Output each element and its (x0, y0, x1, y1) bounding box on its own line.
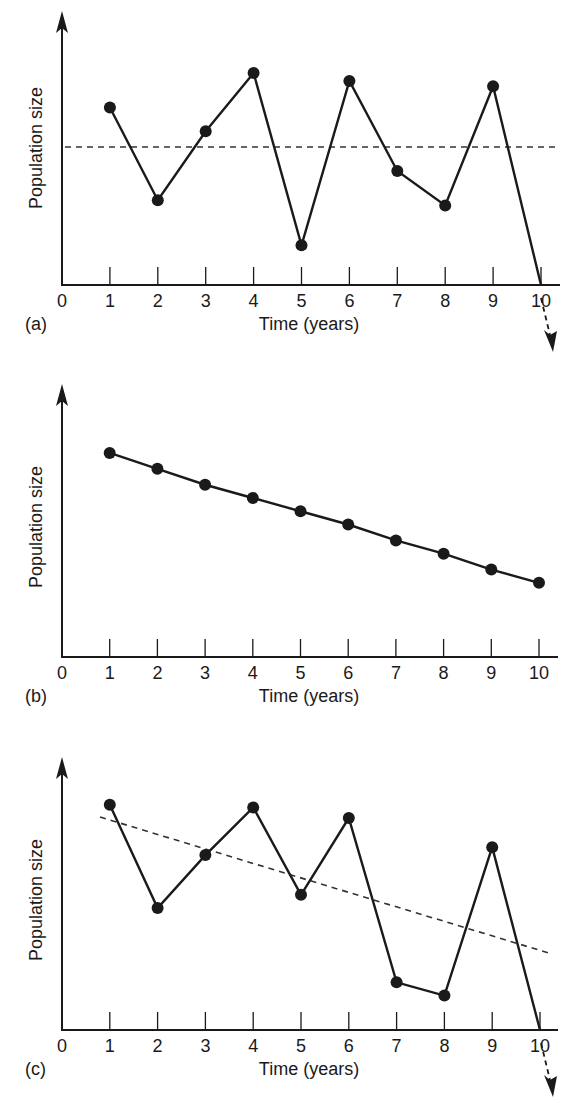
chart-a-svg: 012345678910 Population size Time (years… (0, 0, 580, 370)
x-tick-label: 4 (249, 291, 259, 311)
x-axis-title: Time (years) (259, 1059, 359, 1079)
x-tick-label: 2 (153, 1036, 163, 1056)
x-tick-label: 10 (530, 1036, 550, 1056)
x-tick-label: 7 (392, 1036, 402, 1056)
x-tick-label: 0 (57, 1036, 67, 1056)
x-tick-label: 8 (439, 663, 449, 683)
data-point-marker (486, 841, 498, 853)
chart-panel-b: 012345678910 Population size Time (years… (0, 370, 580, 740)
data-markers (104, 799, 498, 1002)
data-point-marker (247, 801, 259, 813)
data-point-marker (438, 990, 450, 1002)
x-axis: 012345678910 (57, 639, 558, 683)
y-axis (56, 11, 68, 285)
data-point-marker (152, 902, 164, 914)
data-point-marker (343, 812, 355, 824)
y-axis-title: Population size (26, 466, 46, 588)
y-axis (56, 384, 68, 657)
x-tick-label: 10 (529, 663, 549, 683)
chart-c-svg: 012345678910 Population size Time (years… (0, 740, 580, 1103)
data-point-marker (342, 519, 354, 531)
x-axis: 012345678910 (57, 1012, 558, 1056)
x-axis: 012345678910 (57, 267, 560, 311)
y-axis (56, 757, 68, 1030)
x-tick-label: 6 (343, 663, 353, 683)
x-tick-label: 2 (152, 663, 162, 683)
data-point-marker (152, 194, 164, 206)
population-line (110, 73, 541, 285)
data-point-marker (295, 505, 307, 517)
x-tick-label: 3 (200, 663, 210, 683)
x-ticks (110, 639, 539, 657)
data-point-marker (200, 125, 212, 137)
x-tick-label: 4 (248, 1036, 258, 1056)
data-point-marker (295, 889, 307, 901)
trend-dashed-line (100, 817, 552, 954)
data-point-marker (390, 534, 402, 546)
x-tick-label: 1 (105, 663, 115, 683)
data-point-marker (439, 200, 451, 212)
panel-label: (a) (25, 314, 47, 334)
x-tick-label: 0 (57, 663, 67, 683)
x-tick-label: 3 (200, 1036, 210, 1056)
x-tick-label: 9 (488, 291, 498, 311)
x-tick-label: 9 (486, 663, 496, 683)
x-axis-title: Time (years) (259, 686, 359, 706)
data-point-marker (391, 976, 403, 988)
data-point-marker (199, 849, 211, 861)
x-tick-labels: 012345678910 (57, 291, 551, 311)
data-point-marker (104, 447, 116, 459)
y-axis-title: Population size (26, 839, 46, 961)
x-tick-label: 6 (344, 291, 354, 311)
x-tick-label: 9 (487, 1036, 497, 1056)
data-point-marker (104, 101, 116, 113)
x-ticks (110, 267, 541, 285)
data-point-marker (247, 492, 259, 504)
x-tick-label: 8 (440, 291, 450, 311)
data-point-marker (438, 548, 450, 560)
x-tick-label: 7 (391, 663, 401, 683)
x-axis-title: Time (years) (259, 314, 359, 334)
x-tick-label: 1 (105, 1036, 115, 1056)
x-tick-label: 5 (296, 1036, 306, 1056)
data-point-marker (248, 67, 260, 79)
x-tick-label: 8 (439, 1036, 449, 1056)
x-tick-label: 3 (201, 291, 211, 311)
data-point-marker (296, 239, 308, 251)
data-point-marker (199, 479, 211, 491)
population-line (110, 453, 539, 583)
data-markers (104, 67, 499, 251)
x-tick-label: 5 (296, 291, 306, 311)
data-point-marker (391, 165, 403, 177)
x-tick-label: 2 (153, 291, 163, 311)
data-point-marker (533, 577, 545, 589)
x-tick-labels: 012345678910 (57, 663, 549, 683)
panel-label: (c) (25, 1059, 46, 1079)
x-tick-label: 5 (295, 663, 305, 683)
panel-label: (b) (25, 686, 47, 706)
data-point-marker (151, 463, 163, 475)
x-tick-label: 0 (57, 291, 67, 311)
chart-b-svg: 012345678910 Population size Time (years… (0, 370, 580, 740)
chart-panel-c: 012345678910 Population size Time (years… (0, 740, 580, 1103)
x-ticks (110, 1012, 540, 1030)
y-axis-title: Population size (26, 87, 46, 209)
population-line (110, 805, 540, 1030)
x-tick-label: 6 (344, 1036, 354, 1056)
x-tick-label: 7 (392, 291, 402, 311)
data-point-marker (485, 564, 497, 576)
data-point-marker (343, 75, 355, 87)
data-point-marker (104, 799, 116, 811)
x-tick-label: 1 (105, 291, 115, 311)
x-tick-label: 4 (248, 663, 258, 683)
x-tick-labels: 012345678910 (57, 1036, 550, 1056)
data-point-marker (487, 80, 499, 92)
chart-panel-a: 012345678910 Population size Time (years… (0, 0, 580, 370)
